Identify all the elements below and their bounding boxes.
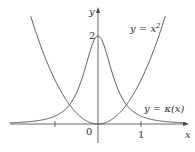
- y-tick-label-2: 2: [89, 30, 95, 41]
- origin-label: 0: [86, 126, 92, 137]
- x-axis-label: x: [185, 129, 191, 140]
- y-axis-arrow-icon: [96, 7, 100, 13]
- y-axis-label: y: [88, 6, 95, 17]
- x-tick-label-1: 1: [138, 129, 144, 140]
- label-curvature: y = κ(x): [143, 103, 184, 114]
- chart: y x 0 1 2 y = x2 y = κ(x): [0, 0, 195, 152]
- label-parabola: y = x2: [129, 22, 161, 34]
